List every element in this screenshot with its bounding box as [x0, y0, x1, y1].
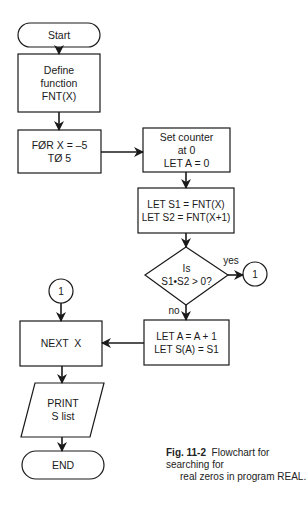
- for-label: FØR X = –5 TØ 5: [18, 130, 101, 173]
- define-label: Define function FNT(X): [18, 54, 100, 112]
- caption-line-2: real zeros in program REAL.: [166, 471, 308, 483]
- connector-right-label: 1: [243, 262, 267, 286]
- end-label: END: [22, 451, 104, 479]
- lets-label: LET S1 = FNT(X) LET S2 = FNT(X+1): [138, 188, 234, 233]
- yes-edge-label: yes: [219, 253, 243, 267]
- increment-label: LET A = A + 1 LET S(A) = S1: [144, 320, 229, 365]
- connector-left-label: 1: [49, 279, 73, 303]
- figure-caption: Fig. 11-2 Flowchart for searching for re…: [166, 447, 308, 483]
- counter-label: Set counter at 0 LET A = 0: [143, 128, 230, 172]
- decision-label: Is S1•S2 > 0?: [145, 258, 228, 292]
- print-label: PRINT S list: [28, 383, 98, 437]
- no-edge-label: no: [164, 303, 184, 317]
- next-label: NEXT X: [20, 321, 102, 366]
- figure-number: Fig. 11-2: [166, 447, 206, 458]
- start-label: Start: [18, 23, 100, 47]
